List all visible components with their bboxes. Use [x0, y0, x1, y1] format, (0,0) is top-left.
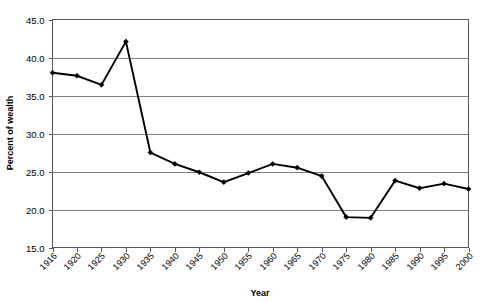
chart-canvas: 15.020.025.030.035.040.045.0 19161920192… — [0, 0, 481, 303]
y-tick-label: 35.0 — [26, 91, 45, 102]
y-tick-label: 15.0 — [26, 243, 45, 254]
x-axis-title: Year — [250, 288, 270, 298]
y-tick-label: 30.0 — [26, 129, 45, 140]
y-tick-label: 20.0 — [26, 205, 45, 216]
line-chart: 15.020.025.030.035.040.045.0 19161920192… — [0, 0, 481, 303]
y-tick-label: 25.0 — [26, 167, 45, 178]
y-axis-title: Percent of wealth — [5, 96, 15, 171]
y-tick-label: 45.0 — [26, 15, 45, 26]
y-tick-label: 40.0 — [26, 53, 45, 64]
